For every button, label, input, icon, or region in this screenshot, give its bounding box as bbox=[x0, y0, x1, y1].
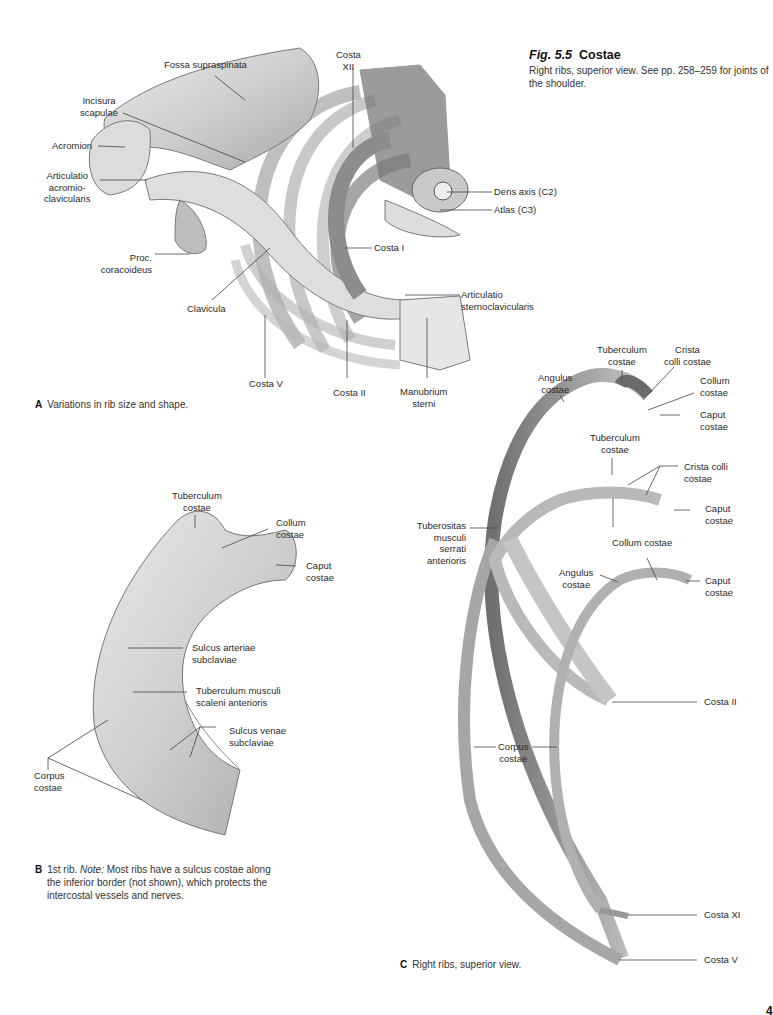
label-fossa-supraspinata: Fossa supraspinata bbox=[164, 59, 247, 71]
label-caput-costae-c3: Caputcostae bbox=[705, 575, 733, 598]
label-caput-costae-c2: Caputcostae bbox=[705, 503, 733, 526]
leader-lines bbox=[48, 68, 700, 960]
label-crista-colli-costae-c1: Cristacolli costae bbox=[664, 344, 711, 367]
label-collum-costae-c2: Collum costae bbox=[612, 537, 672, 549]
label-corpus-costae-b: Corpuscostae bbox=[34, 770, 65, 793]
label-dens-axis: Dens axis (C2) bbox=[494, 186, 557, 198]
label-incisura-scapulae: Incisurascapulae bbox=[80, 95, 118, 118]
label-sulcus-arteriae-subclaviae: Sulcus arteriaesubclaviae bbox=[192, 642, 255, 665]
caption-b: B1st rib. Note: Most ribs have a sulcus … bbox=[35, 863, 277, 902]
figure-description: Right ribs, superior view. See pp. 258–2… bbox=[529, 64, 769, 90]
label-costa-xi: Costa XI bbox=[704, 909, 740, 921]
label-caput-costae-b: Caputcostae bbox=[306, 560, 334, 583]
label-articulatio-acromioclavicularis: Articulatioacromio-clavicularis bbox=[44, 170, 90, 205]
label-costa-i: Costa I bbox=[374, 242, 404, 254]
label-articulatio-sternoclavicularis: Articulatiosternoclavicularis bbox=[461, 289, 534, 312]
label-manubrium-sterni: Manubriumsterni bbox=[400, 386, 448, 409]
figure-title-text: Costae bbox=[579, 48, 621, 62]
page-number: 4 bbox=[766, 1004, 773, 1015]
label-costa-ii-a: Costa II bbox=[333, 387, 366, 399]
label-tuberculum-costae-b: Tuberculumcostae bbox=[172, 490, 222, 513]
label-costa-v-c: Costa V bbox=[704, 954, 738, 966]
label-angulus-costae-c1: Anguluscostae bbox=[538, 372, 572, 395]
figure-number: Fig. 5.5 bbox=[529, 48, 572, 62]
label-costa-xii: CostaXII bbox=[336, 49, 361, 72]
label-tuberculum-costae-c2: Tuberculumcostae bbox=[590, 432, 640, 455]
label-costa-v-a: Costa V bbox=[249, 378, 283, 390]
label-corpus-costae-c: Corpuscostae bbox=[498, 741, 529, 764]
label-atlas: Atlas (C3) bbox=[494, 204, 536, 216]
label-costa-ii-c: Costa II bbox=[704, 696, 737, 708]
caption-a: AVariations in rib size and shape. bbox=[35, 398, 188, 411]
label-tuberculum-musculi-scaleni: Tuberculum musculiscaleni anterioris bbox=[196, 685, 281, 708]
caption-c: CRight ribs, superior view. bbox=[400, 958, 521, 971]
label-clavicula: Clavicula bbox=[187, 303, 226, 315]
panel-b-illustration bbox=[93, 511, 296, 835]
label-tuberculum-costae-c1: Tuberculumcostae bbox=[597, 344, 647, 367]
figure-title: Fig. 5.5 Costae bbox=[529, 48, 621, 62]
label-proc-coracoideus: Proc.coracoideus bbox=[96, 252, 152, 275]
label-caput-costae-c1: Caputcostae bbox=[700, 409, 728, 432]
panel-c-illustration bbox=[464, 375, 690, 960]
label-collum-costae-b: Collumcostae bbox=[276, 517, 306, 540]
label-collum-costae-c1: Collumcostae bbox=[700, 375, 730, 398]
label-sulcus-venae-subclaviae: Sulcus venaesubclaviae bbox=[229, 725, 286, 748]
label-tuberositas-musculi-serrati: Tuberositasmusculiserratianterioris bbox=[410, 520, 466, 566]
panel-a-illustration bbox=[89, 48, 470, 370]
label-angulus-costae-c2: Anguluscostae bbox=[559, 567, 593, 590]
label-acromion: Acromion bbox=[52, 140, 92, 152]
label-crista-colli-costae-c2: Crista collicostae bbox=[684, 461, 728, 484]
